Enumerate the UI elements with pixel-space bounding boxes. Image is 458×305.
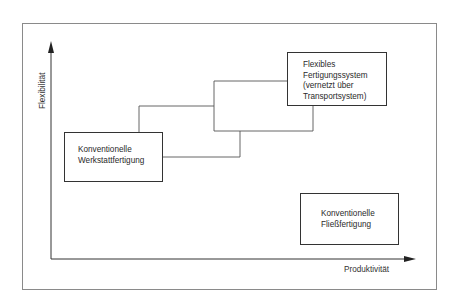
- box-label-line: Transportsystem): [303, 92, 386, 103]
- box-flexibles-fertigungssystem: Flexibles Fertigungssystem (vernetzt übe…: [287, 52, 387, 106]
- x-axis-arrow-icon: [404, 256, 416, 262]
- box-label-line: (vernetzt über: [303, 81, 386, 92]
- box-label-line: Werkstattfertigung: [78, 156, 162, 167]
- box-label-line: Flexibles: [303, 60, 386, 71]
- box-werkstattfertigung: Konventionelle Werkstattfertigung: [64, 132, 163, 182]
- box-label-line: Konventionelle: [78, 145, 162, 156]
- y-axis-label: Flexibilität: [38, 73, 47, 109]
- y-axis-arrow-icon: [48, 41, 54, 53]
- box-label-line: Fertigungssystem: [303, 71, 386, 82]
- x-axis-label: Produktivität: [344, 265, 389, 274]
- box-fliessfertigung: Konventionelle Fließfertigung: [300, 193, 399, 245]
- box-label-line: Fließfertigung: [321, 220, 398, 231]
- box-label-line: Konventionelle: [321, 209, 398, 220]
